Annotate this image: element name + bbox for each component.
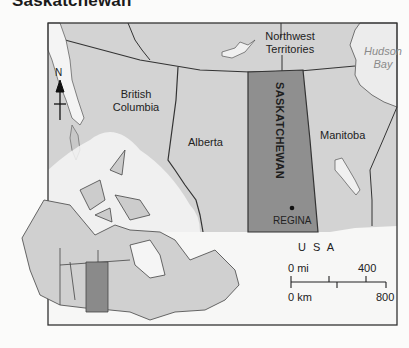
north-label: N	[55, 66, 62, 79]
scale-km-start: 0 km	[288, 291, 312, 303]
hudson-line2: Bay	[360, 58, 406, 71]
label-alberta: Alberta	[188, 136, 223, 149]
label-manitoba: Manitoba	[320, 129, 365, 142]
label-hudson-bay: Hudson Bay	[360, 45, 406, 71]
scale-mi-start: 0 mi	[288, 262, 309, 274]
scale-mi-end: 400	[358, 262, 376, 274]
saskatchewan-map	[0, 0, 409, 348]
bc-line2: Columbia	[106, 101, 166, 114]
label-northwest-territories: Northwest Territories	[250, 30, 330, 56]
bc-line1: British	[106, 88, 166, 101]
nwt-line1: Northwest	[250, 30, 330, 43]
hudson-line1: Hudson	[360, 45, 406, 58]
regina-marker	[290, 206, 295, 211]
label-saskatchewan: SASKATCHEWAN	[274, 82, 286, 179]
label-regina: REGINA	[273, 214, 311, 227]
label-british-columbia: British Columbia	[106, 88, 166, 114]
scale-km-end: 800	[376, 291, 394, 303]
label-usa: U S A	[298, 241, 336, 254]
nwt-line2: Territories	[250, 43, 330, 56]
